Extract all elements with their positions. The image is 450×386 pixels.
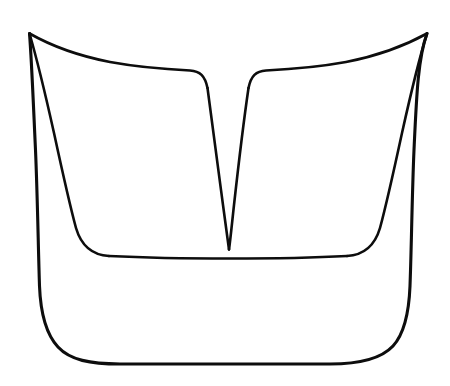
drawing-canvas: Vessel outline line drawing Hand-drawn b… <box>0 0 450 386</box>
vessel-outline-figure: Vessel outline line drawing Hand-drawn b… <box>0 0 450 386</box>
